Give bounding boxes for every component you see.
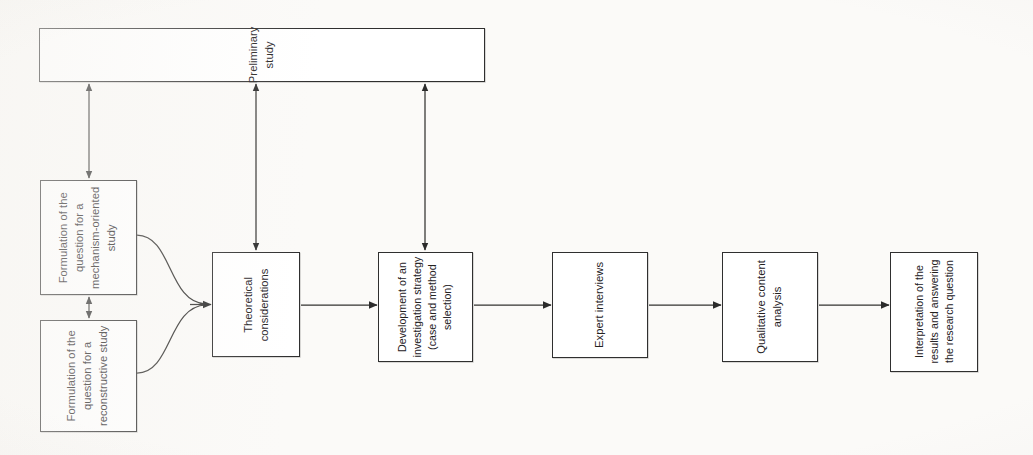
node-theoretical-considerations-label: Theoretical considerations <box>240 268 272 341</box>
node-formulation-reconstructive-label: Formulation of the question for a recons… <box>65 326 113 427</box>
node-qualitative-content-analysis[interactable]: Qualitative content analysis <box>722 252 818 362</box>
node-theoretical-considerations[interactable]: Theoretical considerations <box>212 252 300 357</box>
node-expert-interviews-label: Expert interviews <box>592 262 608 348</box>
node-investigation-strategy-label: Development of an investigation strategy… <box>395 257 455 358</box>
node-expert-interviews[interactable]: Expert interviews <box>552 252 648 358</box>
node-qualitative-content-analysis-label: Qualitative content analysis <box>754 260 786 354</box>
node-preliminary-study-label: Preliminary study <box>246 27 278 84</box>
node-formulation-mechanism[interactable]: Formulation of the question for a mechan… <box>40 180 137 295</box>
node-preliminary-study[interactable]: Preliminary study <box>39 28 485 82</box>
flowchart-page: Preliminary study Formulation of the que… <box>0 0 1033 455</box>
connector-mechanism-curve <box>137 235 206 304</box>
node-formulation-mechanism-label: Formulation of the question for a mechan… <box>57 186 121 288</box>
node-investigation-strategy[interactable]: Development of an investigation strategy… <box>378 252 473 362</box>
node-interpretation-results-label: Interpretation of the results and answer… <box>911 260 956 364</box>
connector-reconstructive-curve <box>137 305 206 373</box>
node-formulation-reconstructive[interactable]: Formulation of the question for a recons… <box>40 320 137 432</box>
node-interpretation-results[interactable]: Interpretation of the results and answer… <box>890 252 978 372</box>
